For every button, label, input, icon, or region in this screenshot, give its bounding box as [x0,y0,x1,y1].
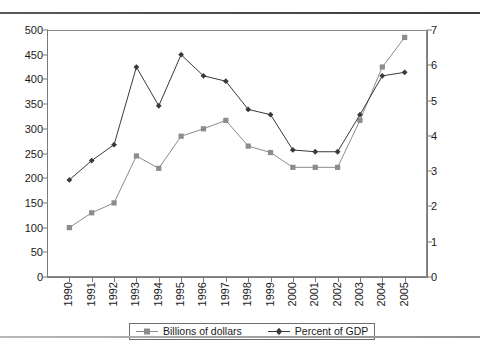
right-axis-tick-mark [427,277,432,278]
x-axis-tick-label: 2004 [376,282,387,306]
chart-figure: 050100150200250300350400450500 01234567 … [0,18,480,330]
right-axis-tick-mark [427,241,432,242]
left-axis-tick: 400 [25,74,43,85]
data-point-square [111,200,116,205]
left-axis-tick-labels: 050100150200250300350400450500 [0,30,43,277]
square-marker-icon [136,327,158,336]
data-point-square [67,225,72,230]
data-point-square [313,165,318,170]
data-point-diamond [156,103,162,109]
data-point-square [134,153,139,158]
data-point-square [268,150,273,155]
x-axis-tick-label: 2001 [309,282,320,306]
right-axis-tick-mark [427,100,432,101]
x-axis-tick-label: 2000 [287,282,298,306]
data-point-diamond [290,147,296,153]
x-axis-tick-label: 2005 [399,282,410,306]
bottom-axis-line [47,277,428,278]
x-axis-tick-label: 1999 [265,282,276,306]
data-point-square [335,165,340,170]
data-point-square [179,134,184,139]
left-axis-tick: 150 [25,197,43,208]
left-axis-tick: 350 [25,99,43,110]
bottom-horizontal-rule [0,336,480,338]
data-point-square [89,210,94,215]
data-point-diamond [379,73,385,79]
x-axis-tick-labels: 1990199119921993199419951996199719981999… [0,282,480,326]
left-axis-tick: 300 [25,123,43,134]
data-point-diamond [134,64,140,70]
data-point-square [290,165,295,170]
x-axis-tick-label: 2002 [332,282,343,306]
data-point-diamond [402,69,408,75]
x-axis-tick-label: 1998 [242,282,253,306]
top-horizontal-rule [0,12,480,14]
series-plot [47,30,427,277]
series-line-billions [69,37,404,227]
series-line-percent [69,55,404,180]
data-point-square [156,166,161,171]
x-axis-tick-label: 1994 [153,282,164,306]
right-axis-tick-mark [427,135,432,136]
x-axis-tick-label: 1997 [220,282,231,306]
right-axis-tick-mark [427,206,432,207]
x-axis-tick-label: 2003 [354,282,365,306]
left-axis-tick: 250 [25,148,43,159]
x-axis-tick-label: 1992 [108,282,119,306]
right-axis-tick-mark [427,30,432,31]
data-point-square [201,126,206,131]
left-axis-tick: 200 [25,173,43,184]
x-axis-tick-label: 1995 [175,282,186,306]
right-axis-tick-labels: 01234567 [431,30,461,277]
x-axis-tick-label: 1990 [63,282,74,306]
left-axis-tick: 450 [25,49,43,60]
left-axis-tick: 500 [25,25,43,36]
x-axis-tick-label: 1991 [86,282,97,306]
chart-page: 050100150200250300350400450500 01234567 … [0,0,480,351]
right-axis-tick-mark [427,65,432,66]
data-point-square [402,35,407,40]
left-axis-tick: 100 [25,222,43,233]
data-point-diamond [335,149,341,155]
data-point-square [246,143,251,148]
diamond-marker-icon [268,327,290,336]
x-axis-tick-label: 1996 [197,282,208,306]
data-point-diamond [312,149,318,155]
data-point-square [223,118,228,123]
left-axis-tick: 50 [31,247,43,258]
data-point-diamond [268,112,274,118]
data-point-square [380,64,385,69]
x-axis-tick-label: 1993 [130,282,141,306]
right-axis-tick-mark [427,171,432,172]
